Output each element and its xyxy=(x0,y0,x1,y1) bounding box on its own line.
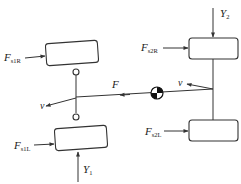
force-arrow xyxy=(120,95,130,96)
front-right-wheel xyxy=(45,40,98,66)
label-fs1r: Fs1R xyxy=(3,51,22,64)
rear-left-wheel xyxy=(189,120,238,141)
velocity-front-arrow xyxy=(46,98,76,106)
front-left-wheel xyxy=(54,125,107,151)
rear-right-wheel xyxy=(189,38,238,59)
center-of-mass-icon xyxy=(151,87,163,99)
label-f: F xyxy=(111,78,119,90)
label-y1: Y1 xyxy=(83,163,92,176)
vehicle-force-diagram: Fs1R Fs2R Fs1L Fs2L Y2 Y1 F v v xyxy=(0,0,241,184)
velocity-rear-arrow xyxy=(187,84,213,89)
fs1r-arrow xyxy=(25,56,45,58)
fs1l-arrow xyxy=(34,144,54,145)
front-right-kingpin xyxy=(73,69,79,75)
force-line xyxy=(76,89,213,97)
label-fs2l: Fs2L xyxy=(144,125,162,138)
label-fs2r: Fs2R xyxy=(140,41,159,54)
label-y2: Y2 xyxy=(220,7,229,20)
front-left-kingpin xyxy=(73,114,79,120)
label-fs1l: Fs1L xyxy=(13,139,31,152)
label-v-front: v xyxy=(40,100,45,111)
label-v-rear: v xyxy=(178,77,183,88)
